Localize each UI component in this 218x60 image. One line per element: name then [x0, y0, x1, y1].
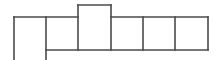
grid-net-diagram [0, 0, 218, 60]
